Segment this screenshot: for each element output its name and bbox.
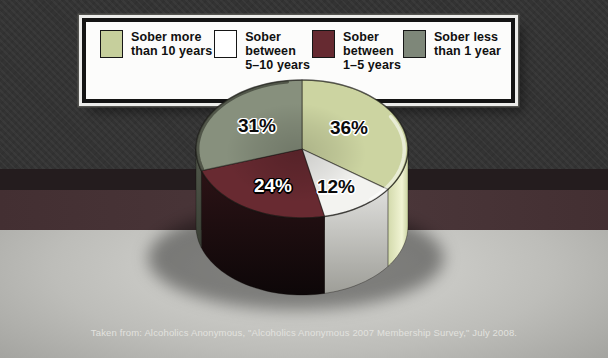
pie-label-31pct: 31% xyxy=(238,115,276,137)
pie-label-12pct: 12% xyxy=(317,176,355,198)
pie-label-24pct: 24% xyxy=(254,175,292,197)
infographic-stage: Sober more than 10 years Sober between 5… xyxy=(0,0,608,358)
pie-chart xyxy=(0,0,608,358)
pie-label-36pct: 36% xyxy=(330,117,368,139)
source-caption: Taken from: Alcoholics Anonymous, "Alcoh… xyxy=(0,327,608,338)
